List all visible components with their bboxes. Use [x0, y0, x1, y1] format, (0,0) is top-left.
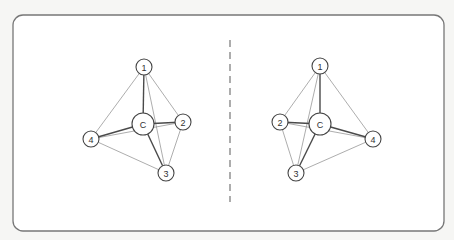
vertex-node-4: 4: [83, 131, 99, 147]
vertex-node-4: 4: [365, 131, 381, 147]
node-label: 3: [293, 169, 298, 179]
figure-frame: [13, 15, 444, 231]
vertex-node-2: 2: [175, 114, 191, 130]
node-label: 4: [88, 135, 93, 145]
vertex-node-2: 2: [272, 114, 288, 130]
node-label: 2: [180, 118, 185, 128]
vertex-node-3: 3: [158, 165, 174, 181]
node-label: 1: [141, 63, 146, 73]
vertex-node-3: 3: [288, 165, 304, 181]
center-atom-node: C: [132, 113, 154, 135]
node-label: C: [140, 120, 147, 130]
vertex-node-1: 1: [136, 59, 152, 75]
center-atom-node: C: [309, 113, 331, 135]
node-label: 1: [317, 62, 322, 72]
node-label: 2: [277, 118, 282, 128]
node-label: 3: [163, 169, 168, 179]
node-label: 4: [370, 135, 375, 145]
vertex-node-1: 1: [312, 58, 328, 74]
node-label: C: [317, 120, 324, 130]
chirality-diagram: 1234C 1234C: [0, 0, 454, 240]
